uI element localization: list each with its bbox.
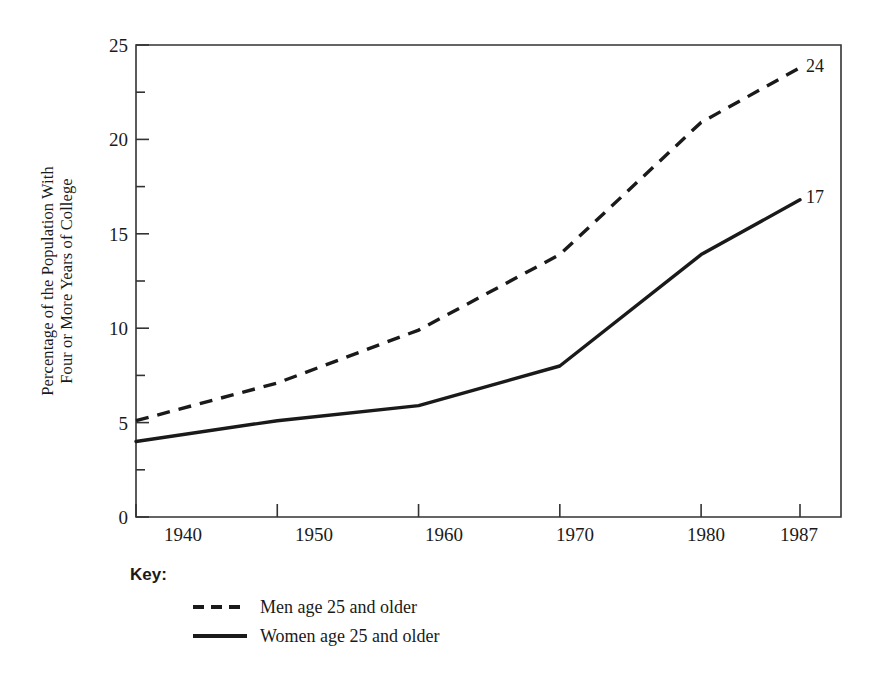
legend-title: Key: — [130, 565, 440, 585]
axes-frame — [136, 45, 841, 517]
legend-label-women: Women age 25 and older — [260, 626, 440, 647]
legend: Key: Men age 25 and older Women age 25 a… — [130, 565, 440, 653]
legend-swatch-dashed-icon — [192, 600, 248, 614]
legend-entry-women: Women age 25 and older — [192, 624, 440, 648]
end-label-men: 24 — [806, 57, 824, 75]
y-axis-ticks — [136, 45, 149, 517]
end-label-women: 17 — [806, 188, 824, 206]
legend-label-men: Men age 25 and older — [260, 597, 417, 618]
series-line-women — [136, 200, 800, 442]
series-line-men — [136, 68, 800, 421]
legend-entry-men: Men age 25 and older — [192, 595, 440, 619]
legend-swatch-solid-icon — [192, 629, 248, 643]
x-axis-ticks — [136, 504, 800, 517]
line-chart-figure: Percentage of the Population With Four o… — [0, 0, 886, 680]
